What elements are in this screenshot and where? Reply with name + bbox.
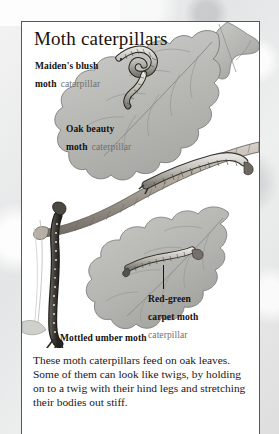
- label-oak-beauty-caterpillar: caterpillar: [92, 142, 132, 152]
- page-root: Moth caterpillars Maiden's blush moth ca…: [0, 0, 279, 434]
- label-oak-beauty: Oak beauty moth caterpillar: [66, 118, 131, 154]
- label-maidens-blush-line1: Maiden's blush: [35, 61, 98, 71]
- label-red-green-carpet: Red-green carpet moth caterpillar: [148, 288, 198, 342]
- label-oak-beauty-line1: Oak beauty: [66, 124, 114, 134]
- label-red-green-line1: Red-green: [148, 294, 191, 304]
- page-title: Moth caterpillars: [34, 28, 168, 50]
- illustration-plate: Moth caterpillars Maiden's blush moth ca…: [21, 21, 260, 434]
- label-mottled-umber: Mottled umber moth caterpillar: [60, 327, 147, 348]
- label-maidens-blush-line2: moth: [35, 79, 57, 89]
- label-red-green-caterpillar: caterpillar: [148, 330, 188, 340]
- caption-block: These moth caterpillars feed on oak leav…: [22, 349, 259, 434]
- label-mottled-umber-line1: Mottled umber moth: [60, 333, 147, 343]
- label-oak-beauty-line2: moth: [66, 142, 88, 152]
- label-red-green-line2: carpet moth: [148, 312, 198, 322]
- label-maidens-blush-caterpillar: caterpillar: [61, 79, 101, 89]
- leader-line-red-green: [163, 265, 164, 289]
- artwork-region: Moth caterpillars Maiden's blush moth ca…: [22, 22, 259, 348]
- label-maidens-blush: Maiden's blush moth caterpillar: [35, 55, 100, 91]
- caption-text: These moth caterpillars feed on oak leav…: [33, 353, 250, 409]
